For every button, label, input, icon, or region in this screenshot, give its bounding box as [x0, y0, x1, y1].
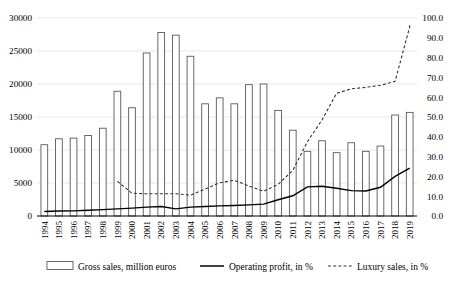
- y-axis-tick-label-secondary: 70.0: [427, 73, 443, 83]
- x-axis-tick-label-2009: 2009: [259, 221, 269, 240]
- y-axis-tick-label-primary: 30000: [9, 13, 32, 23]
- x-axis-tick-label-1996: 1996: [69, 221, 79, 240]
- legend-label-operating-profit: Operating profit, in %: [229, 262, 313, 272]
- y-axis-tick-label-secondary: 30.0: [427, 152, 443, 162]
- x-axis-tick-label-2017: 2017: [376, 221, 386, 240]
- bar-1998: [99, 128, 106, 216]
- x-axis-tick-label-2015: 2015: [346, 221, 356, 240]
- x-axis-tick-label-1999: 1999: [113, 221, 123, 240]
- x-axis-tick-label-2002: 2002: [156, 221, 166, 239]
- bar-1999: [114, 91, 121, 216]
- x-axis-tick-label-2019: 2019: [405, 221, 415, 240]
- x-axis-tick-label-2006: 2006: [215, 221, 225, 240]
- y-axis-tick-label-primary: 10000: [9, 145, 32, 155]
- y-axis-tick-label-primary: 20000: [9, 79, 32, 89]
- y-axis-tick-label-secondary: 10.0: [427, 192, 443, 202]
- x-axis-tick-label-2004: 2004: [186, 221, 196, 240]
- bar-1996: [70, 138, 77, 216]
- x-axis-tick-label-2008: 2008: [244, 221, 254, 240]
- y-axis-tick-label-secondary: 60.0: [427, 93, 443, 103]
- y-axis-tick-label-secondary: 40.0: [427, 132, 443, 142]
- x-axis-tick-label-2014: 2014: [332, 221, 342, 240]
- legend-label-luxury-sales: Luxury sales, in %: [357, 262, 428, 272]
- bar-1994: [41, 145, 48, 216]
- x-axis-tick-label-2018: 2018: [390, 221, 400, 240]
- bar-2001: [143, 53, 150, 216]
- y-axis-tick-label-secondary: 50.0: [427, 112, 443, 122]
- x-axis-tick-label-2013: 2013: [317, 221, 327, 240]
- bar-2009: [260, 84, 267, 216]
- x-axis-tick-label-2003: 2003: [171, 221, 181, 240]
- x-axis-tick-label-2000: 2000: [127, 221, 137, 240]
- x-axis-tick-label-2016: 2016: [361, 221, 371, 240]
- y-axis-tick-label-primary: 5000: [14, 178, 33, 188]
- bar-2018: [392, 115, 399, 216]
- y-axis-tick-label-secondary: 80.0: [427, 53, 443, 63]
- x-axis-tick-label-2007: 2007: [230, 221, 240, 240]
- x-axis-tick-label-2010: 2010: [273, 221, 283, 240]
- y-axis-tick-label-secondary: 0.0: [432, 211, 444, 221]
- bar-2012: [304, 151, 311, 216]
- bar-2017: [377, 146, 384, 216]
- y-axis-tick-label-secondary: 20.0: [427, 172, 443, 182]
- bar-1997: [85, 135, 92, 216]
- bar-2005: [202, 104, 209, 216]
- bar-2007: [231, 104, 238, 216]
- bar-2004: [187, 56, 194, 216]
- bar-2006: [216, 98, 223, 216]
- x-axis-tick-label-1994: 1994: [40, 221, 50, 240]
- bar-2015: [348, 143, 355, 216]
- y-axis-tick-label-primary: 25000: [9, 46, 32, 56]
- x-axis-tick-label-1998: 1998: [98, 221, 108, 240]
- x-axis-tick-label-1995: 1995: [54, 221, 64, 240]
- legend-swatch-gross-sales: [47, 262, 73, 270]
- x-axis-tick-label-1997: 1997: [83, 221, 93, 240]
- y-axis-tick-label-primary: 15000: [9, 112, 32, 122]
- legend-label-gross-sales: Gross sales, million euros: [78, 262, 176, 272]
- x-axis-tick-label-2011: 2011: [288, 221, 298, 239]
- bar-2019: [406, 112, 413, 216]
- bar-1995: [56, 139, 63, 216]
- bar-2000: [129, 108, 136, 216]
- chart-container: 0500010000150002000025000300000.010.020.…: [0, 0, 467, 282]
- x-axis-tick-label-2001: 2001: [142, 221, 152, 239]
- bar-2008: [246, 85, 253, 216]
- y-axis-tick-label-primary: 0: [27, 211, 32, 221]
- bar-2003: [172, 35, 179, 216]
- x-axis-tick-label-2005: 2005: [200, 221, 210, 240]
- bar-2002: [158, 33, 165, 216]
- bar-2014: [333, 153, 340, 216]
- bar-2013: [319, 141, 326, 216]
- y-axis-tick-label-secondary: 90.0: [427, 33, 443, 43]
- y-axis-tick-label-secondary: 100.0: [422, 13, 443, 23]
- bar-2016: [362, 151, 369, 216]
- x-axis-tick-label-2012: 2012: [303, 221, 313, 239]
- chart-svg: 0500010000150002000025000300000.010.020.…: [0, 0, 467, 282]
